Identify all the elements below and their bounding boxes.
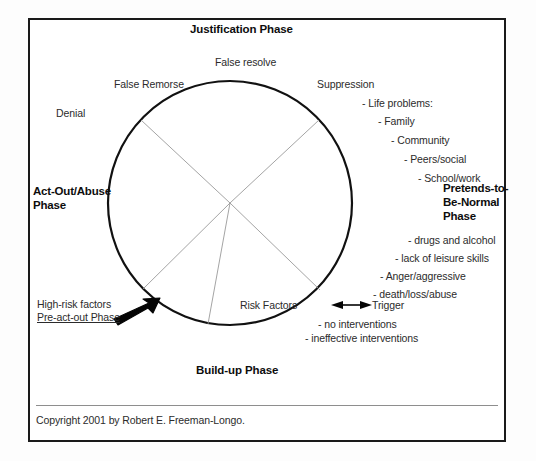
pretends-item-1: - lack of leisure skills — [395, 252, 489, 265]
life-problem-item-0: - Life problems: — [362, 97, 433, 110]
label-false-resolve: False resolve — [215, 56, 276, 69]
phase-title-actout-line2: Phase — [33, 199, 66, 212]
label-trigger: Trigger — [372, 299, 404, 312]
intervention-item-1: - ineffective interventions — [305, 332, 418, 345]
phase-title-buildup: Build-up Phase — [196, 364, 278, 377]
phase-title-pretends-line3: Phase — [443, 210, 476, 223]
diagram-page: Justification Phase Build-up Phase Act-O… — [0, 0, 536, 461]
copyright-notice: Copyright 2001 by Robert E. Freeman-Long… — [36, 414, 245, 426]
pretends-item-2: - Anger/aggressive — [380, 270, 466, 283]
pretends-item-0: - drugs and alcohol — [408, 234, 495, 247]
phase-title-justification: Justification Phase — [190, 23, 293, 36]
life-problem-item-2: - Community — [391, 134, 449, 147]
label-denial: Denial — [56, 107, 85, 120]
intervention-item-0: - no interventions — [318, 318, 397, 331]
phase-title-actout-line1: Act-Out/Abuse — [33, 185, 111, 198]
life-problem-item-1: - Family — [378, 115, 415, 128]
footer-divider — [36, 405, 498, 406]
label-risk-factors: Risk Factors — [240, 299, 297, 312]
label-pre-act-out-phase: Pre-act-out Phase — [37, 311, 120, 324]
life-problem-item-4: - School/work — [418, 172, 480, 185]
diagram-frame — [28, 18, 506, 442]
label-suppression: Suppression — [317, 78, 374, 91]
phase-title-pretends-line2: Be-Normal — [443, 196, 499, 209]
label-false-remorse: False Remorse — [114, 78, 184, 91]
life-problem-item-3: - Peers/social — [404, 153, 466, 166]
label-high-risk-factors: High-risk factors — [37, 298, 111, 311]
